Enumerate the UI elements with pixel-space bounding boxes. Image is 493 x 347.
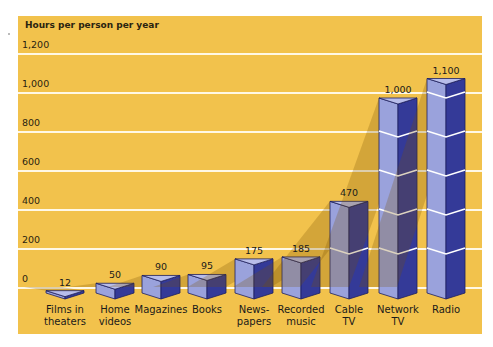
- bar-value-label: 1,000: [373, 84, 423, 95]
- y-tick-label: 600: [22, 156, 40, 167]
- margin-mark: [8, 33, 10, 35]
- bar-value-label: 50: [90, 269, 140, 280]
- bar-value-label: 175: [229, 245, 279, 256]
- bar: [24, 287, 84, 299]
- y-tick-label: 1,200: [22, 39, 49, 50]
- chart-panel: Hours per person per year 1,2001,0008006…: [18, 16, 482, 334]
- category-label: Radio: [416, 304, 476, 316]
- y-tick-label: 400: [22, 195, 40, 206]
- bar-value-label: 185: [276, 243, 326, 254]
- y-tick-label: 0: [22, 273, 28, 284]
- y-tick-label: 1,000: [22, 78, 49, 89]
- y-tick-label: 800: [22, 117, 40, 128]
- bar-value-label: 95: [182, 260, 232, 271]
- bar-value-label: 470: [324, 187, 374, 198]
- bar-value-label: 1,100: [421, 65, 471, 76]
- bar-value-label: 90: [136, 261, 186, 272]
- y-tick-label: 200: [22, 234, 40, 245]
- bar-value-label: 12: [40, 277, 90, 288]
